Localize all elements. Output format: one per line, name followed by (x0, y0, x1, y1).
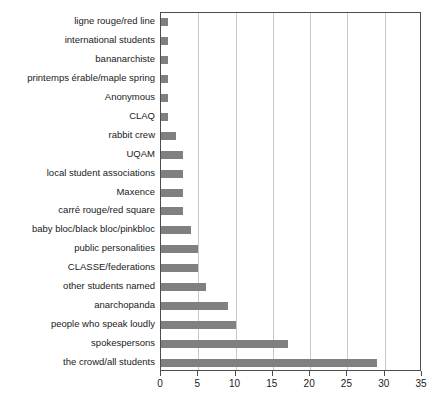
bar (161, 226, 191, 234)
x-tick-mark (421, 371, 422, 376)
bar (161, 302, 228, 310)
bar (161, 132, 176, 140)
bar (161, 189, 183, 197)
y-axis-label: international students (0, 35, 155, 45)
bar (161, 18, 168, 26)
y-axis-label: ligne rouge/red line (0, 16, 155, 26)
y-axis-label: Maxence (0, 187, 155, 197)
x-tick-label: 30 (378, 378, 389, 390)
y-axis-label: public personalities (0, 243, 155, 253)
bar (161, 283, 206, 291)
plot-area (160, 12, 421, 371)
bar (161, 151, 183, 159)
y-axis-label: baby bloc/black bloc/pinkbloc (0, 224, 155, 234)
bar (161, 75, 168, 83)
y-axis-label: carré rouge/red square (0, 205, 155, 215)
x-tick-label: 5 (195, 378, 201, 390)
x-tick-mark (160, 371, 161, 376)
x-tick-label: 10 (229, 378, 240, 390)
y-axis-label: spokespersons (0, 338, 155, 348)
y-axis-label: printemps érable/maple spring (0, 73, 155, 83)
y-axis-label: other students named (0, 281, 155, 291)
bar (161, 264, 198, 272)
y-axis-label: people who speak loudly (0, 319, 155, 329)
x-tick-mark (272, 371, 273, 376)
y-axis-label: CLAQ (0, 111, 155, 121)
y-axis-label: anarchopanda (0, 300, 155, 310)
y-axis-labels: ligne rouge/red lineinternational studen… (0, 12, 155, 371)
y-axis-label: local student associations (0, 168, 155, 178)
bar (161, 340, 288, 348)
y-axis-label: Anonymous (0, 92, 155, 102)
x-tick-label: 20 (304, 378, 315, 390)
x-tick-mark (235, 371, 236, 376)
y-axis-label: UQAM (0, 149, 155, 159)
x-tick-label: 15 (266, 378, 277, 390)
x-tick-label: 25 (341, 378, 352, 390)
bar (161, 94, 168, 102)
bar (161, 56, 168, 64)
x-axis-ticks: 05101520253035 (160, 371, 421, 395)
bar (161, 37, 168, 45)
y-axis-label: the crowd/all students (0, 357, 155, 367)
y-axis-label: bananarchiste (0, 54, 155, 64)
bar (161, 207, 183, 215)
bar (161, 170, 183, 178)
x-tick-label: 35 (415, 378, 426, 390)
x-tick-mark (384, 371, 385, 376)
y-axis-label: rabbit crew (0, 130, 155, 140)
bar (161, 113, 168, 121)
y-axis-label: CLASSE/federations (0, 262, 155, 272)
x-tick-label: 0 (157, 378, 163, 390)
bars-layer (161, 13, 420, 370)
x-tick-mark (346, 371, 347, 376)
bar-chart: ligne rouge/red lineinternational studen… (0, 0, 435, 395)
bar (161, 359, 377, 367)
x-tick-mark (309, 371, 310, 376)
bar (161, 321, 236, 329)
x-tick-mark (197, 371, 198, 376)
bar (161, 245, 198, 253)
